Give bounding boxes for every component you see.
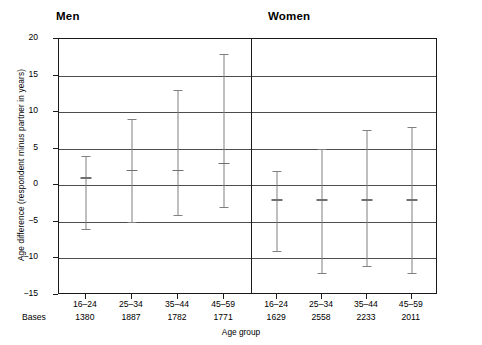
y-tick-mark (53, 148, 58, 149)
error-bar (402, 39, 422, 295)
y-tick-label: 5 (8, 142, 38, 152)
error-bar-stem (322, 149, 323, 273)
x-axis-title: Age group (0, 327, 482, 337)
gridline (59, 258, 436, 259)
panel-divider (251, 39, 252, 293)
error-bar-stem (85, 156, 86, 229)
error-bar-lower-cap (362, 266, 371, 267)
x-tick-label: 45–59 (383, 299, 439, 309)
error-bar-median-marker (361, 199, 372, 201)
panel-header-men: Men (56, 10, 80, 22)
error-bar-lower-cap (220, 207, 229, 208)
y-tick-label: 10 (8, 105, 38, 115)
error-bar-upper-cap (362, 130, 371, 131)
error-bar-lower-cap (81, 229, 90, 230)
error-bar-stem (277, 171, 278, 251)
y-tick-mark (53, 221, 58, 222)
error-bar (214, 39, 234, 295)
y-tick-mark (53, 111, 58, 112)
plot-area (58, 38, 437, 294)
base-value: 1771 (195, 312, 251, 322)
error-bar-lower-cap (318, 273, 327, 274)
y-tick-label: 20 (8, 32, 38, 42)
y-tick-mark (53, 38, 58, 39)
error-bar-median-marker (80, 177, 91, 179)
error-bar-upper-cap (407, 127, 416, 128)
gridline (59, 149, 436, 150)
panel-header-women: Women (268, 10, 310, 22)
error-bar-upper-cap (127, 119, 136, 120)
error-bar (357, 39, 377, 295)
error-bar (312, 39, 332, 295)
error-bar-lower-cap (174, 215, 183, 216)
error-bar-lower-cap (127, 222, 136, 223)
y-tick-label: 0 (8, 178, 38, 188)
error-bar-stem (366, 130, 367, 265)
error-bar (76, 39, 96, 295)
base-value: 2011 (383, 312, 439, 322)
x-tick-label: 45–59 (195, 299, 251, 309)
chart-container: Age difference (respondent minus partner… (0, 0, 482, 345)
error-bar-median-marker (126, 170, 137, 172)
error-bar-median-marker (406, 199, 417, 201)
bases-caption: Bases (22, 312, 46, 322)
error-bar-lower-cap (407, 273, 416, 274)
gridline (59, 222, 436, 223)
error-bar-upper-cap (174, 90, 183, 91)
error-bar-upper-cap (220, 54, 229, 55)
error-bar-median-marker (272, 199, 283, 201)
error-bar-upper-cap (81, 156, 90, 157)
error-bar-upper-cap (273, 171, 282, 172)
gridline (59, 76, 436, 77)
y-tick-mark (53, 257, 58, 258)
y-tick-label: −15 (8, 288, 38, 298)
y-tick-label: −10 (8, 251, 38, 261)
error-bar-median-marker (317, 199, 328, 201)
error-bar-lower-cap (273, 251, 282, 252)
gridline (59, 185, 436, 186)
error-bar-stem (178, 90, 179, 214)
y-tick-mark (53, 75, 58, 76)
error-bar-median-marker (173, 170, 184, 172)
y-tick-label: 15 (8, 69, 38, 79)
error-bar-stem (224, 54, 225, 208)
y-tick-label: −5 (8, 215, 38, 225)
gridline (59, 112, 436, 113)
y-tick-mark (53, 294, 58, 295)
error-bar-median-marker (219, 163, 230, 165)
error-bar (267, 39, 287, 295)
y-tick-mark (53, 184, 58, 185)
error-bar (122, 39, 142, 295)
error-bar (168, 39, 188, 295)
error-bar-upper-cap (318, 149, 327, 150)
